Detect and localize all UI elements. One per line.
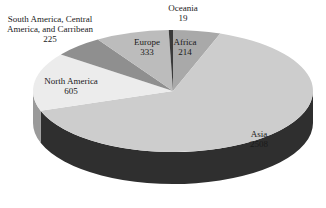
label-south-america: South America, Central America, and Carr… <box>7 14 93 44</box>
label-africa: Africa 214 <box>174 37 197 57</box>
label-oceania: Oceania 19 <box>168 3 197 23</box>
label-europe: Europe 333 <box>134 37 160 57</box>
label-asia: Asia 2508 <box>250 129 268 149</box>
label-north-america: North America 605 <box>44 76 98 96</box>
